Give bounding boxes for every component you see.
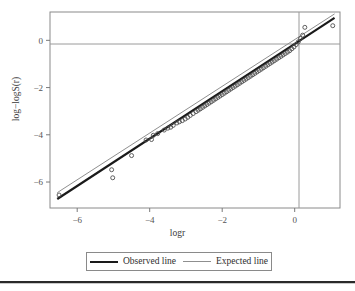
y-tick-label: −2	[33, 83, 43, 93]
legend-item-observed: Observed line	[90, 257, 176, 267]
expected-line-swatch-icon	[183, 261, 211, 262]
chart-legend: Observed line Expected line	[86, 252, 272, 271]
figure-container: −6−4−20 0−2−4−6 log−logS(r) logr Observe…	[0, 0, 355, 291]
y-tick-label: −4	[33, 130, 43, 140]
footer-divider	[0, 281, 355, 284]
x-tick-label: −2	[217, 215, 227, 225]
legend-label-expected: Expected line	[216, 257, 268, 267]
x-tick-label: −4	[145, 215, 155, 225]
y-axis-ticks: 0−2−4−6	[33, 36, 50, 188]
observed-line-swatch-icon	[90, 261, 118, 263]
legend-item-expected: Expected line	[183, 257, 268, 267]
y-axis-title: log−logS(r)	[11, 61, 21, 137]
qq-plot-svg: −6−4−20 0−2−4−6	[0, 0, 355, 291]
x-axis-title: logr	[0, 228, 355, 238]
x-axis-ticks: −6−4−20	[72, 208, 297, 225]
legend-label-observed: Observed line	[123, 257, 176, 267]
x-tick-label: 0	[292, 215, 297, 225]
x-tick-label: −6	[72, 215, 82, 225]
y-tick-label: −6	[33, 177, 43, 187]
y-tick-label: 0	[39, 36, 44, 46]
